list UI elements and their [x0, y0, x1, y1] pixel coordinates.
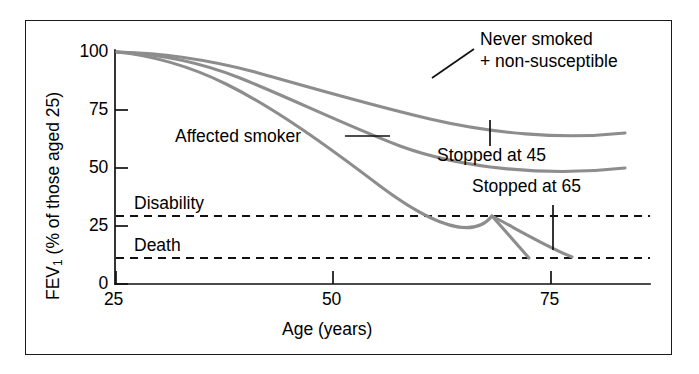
- y-tick-label-0: 0: [62, 274, 108, 294]
- x-tick-label-25: 25: [104, 290, 123, 310]
- annotation-never-smoked: Never smoked + non-susceptible: [480, 28, 618, 73]
- y-axis-title-subscript: 1: [51, 259, 65, 266]
- y-axis-title-rest: (% of those aged 25): [43, 92, 63, 259]
- annotation-disability: Disability: [134, 194, 204, 214]
- y-tick-label-50: 50: [62, 158, 108, 178]
- leader-never-smoked: [432, 49, 474, 78]
- annotation-never-smoked-line2: + non-susceptible: [480, 50, 618, 72]
- annotation-affected-smoker: Affected smoker: [175, 127, 301, 147]
- x-tick-label-75: 75: [540, 290, 559, 310]
- annotation-stopped-at-45: Stopped at 45: [437, 146, 546, 166]
- x-tick-label-50: 50: [322, 290, 341, 310]
- y-tick-label-100: 100: [62, 42, 108, 62]
- y-tick-label-25: 25: [62, 216, 108, 236]
- curve-stopped-at-65: [492, 216, 572, 257]
- annotation-death: Death: [134, 236, 181, 256]
- annotation-never-smoked-line1: Never smoked: [480, 28, 618, 50]
- y-axis-title: FEV1 (% of those aged 25): [44, 92, 64, 300]
- annotation-stopped-at-65: Stopped at 65: [472, 177, 581, 197]
- figure-root: 100 75 50 25 0 25 50 75 FEV1 (% of those…: [0, 0, 699, 374]
- y-tick-label-75: 75: [62, 100, 108, 120]
- y-axis-title-main: FEV: [43, 266, 63, 300]
- x-axis-title: Age (years): [282, 320, 372, 340]
